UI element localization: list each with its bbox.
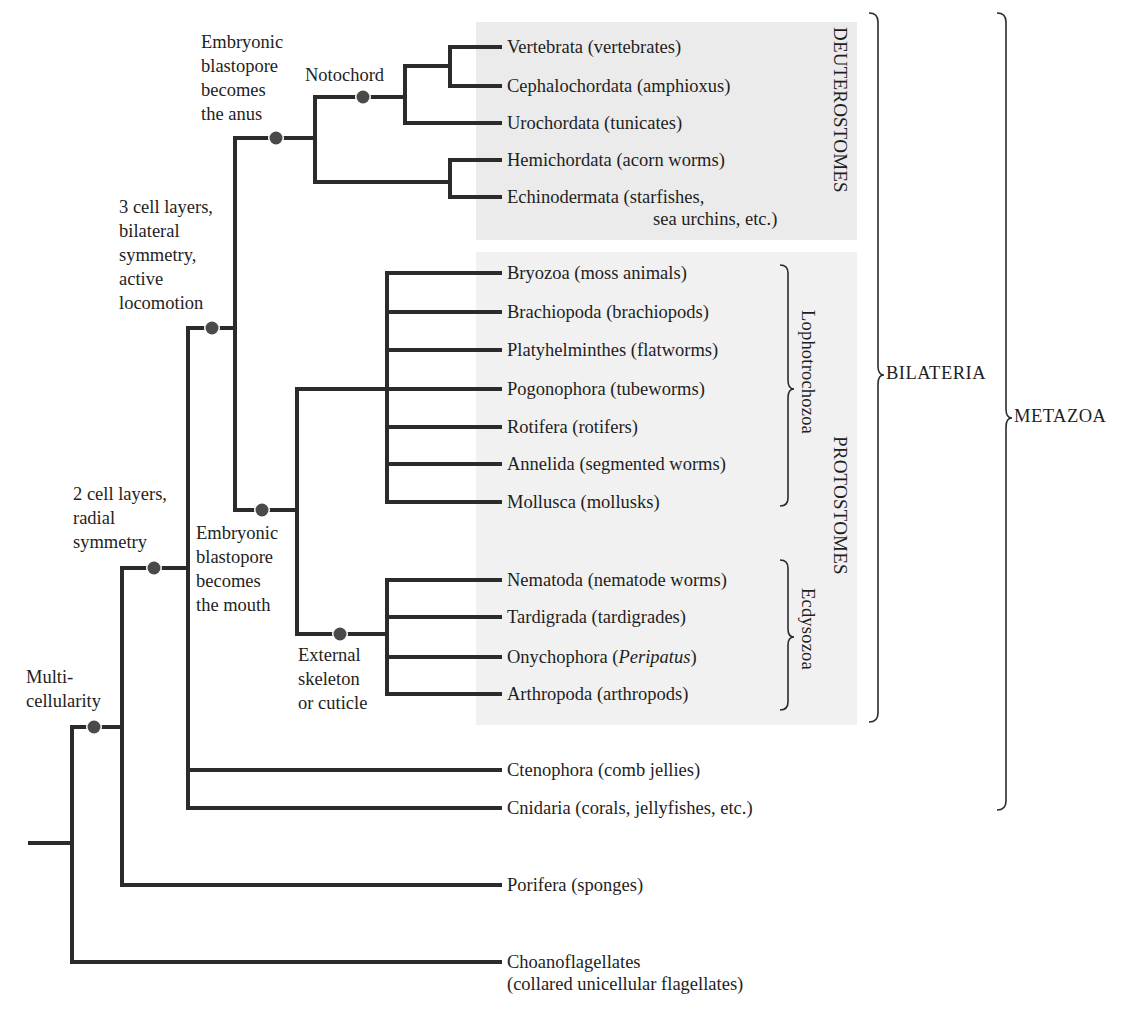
label-blastopore-mouth: Embryonic blastopore becomes the mouth (196, 521, 278, 617)
taxon-porifera: Porifera (sponges) (507, 874, 643, 896)
ecdysozoa-brace (780, 560, 794, 710)
phylogenetic-tree-figure: Embryonic blastopore becomes the anus No… (0, 0, 1147, 1021)
taxon-onychophora: Onychophora (Peripatus) (507, 646, 697, 668)
node-dot-notochord (355, 89, 371, 105)
label-notochord: Notochord (305, 63, 384, 87)
clade-label-bilateria: BILATERIA (886, 363, 986, 384)
group-label-ecdysozoa: Ecdysozoa (797, 588, 818, 670)
group-label-protostomes: PROTOSTOMES (829, 436, 851, 575)
bilateria-brace (869, 13, 884, 722)
taxon-cephalochordata: Cephalochordata (amphioxus) (507, 75, 730, 97)
node-dot-two-cell-layers (146, 560, 162, 576)
taxon-urochordata: Urochordata (tunicates) (507, 112, 682, 134)
taxon-rotifera: Rotifera (rotifers) (507, 416, 638, 438)
taxon-hemichordata: Hemichordata (acorn worms) (507, 149, 725, 171)
group-label-lophotrochozoa: Lophotrochozoa (797, 310, 818, 434)
taxon-cnidaria: Cnidaria (corals, jellyfishes, etc.) (507, 797, 753, 819)
clade-label-metazoa: METAZOA (1014, 406, 1106, 427)
taxon-bryozoa: Bryozoa (moss animals) (507, 262, 687, 284)
node-dot-blastopore-mouth (254, 502, 270, 518)
label-blastopore-anus: Embryonic blastopore becomes the anus (201, 30, 283, 126)
group-label-deuterostomes: DEUTEROSTOMES (829, 27, 851, 193)
label-three-cell-layers: 3 cell layers, bilateral symmetry, activ… (119, 195, 213, 315)
node-dot-multicellularity (86, 719, 102, 735)
taxon-choanoflagellates: Choanoflagellates (collared unicellular … (507, 951, 743, 995)
node-dot-external-skeleton (332, 626, 348, 642)
taxon-mollusca: Mollusca (mollusks) (507, 491, 660, 513)
taxon-pogonophora: Pogonophora (tubeworms) (507, 378, 705, 400)
taxon-echinodermata: Echinodermata (starfishes, sea urchins, … (507, 186, 777, 230)
taxon-tardigrada: Tardigrada (tardigrades) (507, 606, 686, 628)
taxon-platyhelminthes: Platyhelminthes (flatworms) (507, 339, 718, 361)
node-dot-blastopore-anus (268, 130, 284, 146)
taxon-arthropoda: Arthropoda (arthropods) (507, 683, 688, 705)
taxon-nematoda: Nematoda (nematode worms) (507, 569, 727, 591)
lophotrochozoa-brace (780, 265, 794, 506)
taxon-brachiopoda: Brachiopoda (brachiopods) (507, 301, 709, 323)
taxon-ctenophora: Ctenophora (comb jellies) (507, 759, 700, 781)
metazoa-brace (997, 13, 1012, 810)
label-multicellularity: Multi- cellularity (26, 665, 101, 713)
taxon-vertebrata: Vertebrata (vertebrates) (507, 36, 681, 58)
label-two-cell-layers: 2 cell layers, radial symmetry (73, 482, 167, 554)
label-external-skeleton: External skeleton or cuticle (298, 643, 367, 715)
node-dot-three-cell-layers (204, 320, 220, 336)
taxon-annelida: Annelida (segmented worms) (507, 453, 726, 475)
